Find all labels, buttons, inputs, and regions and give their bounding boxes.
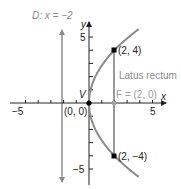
origin-label: (0, 0) <box>64 106 87 117</box>
latus-rectum-label: Latus rectum <box>119 70 177 81</box>
focus-point <box>112 101 117 106</box>
y-tick-label-bottom: −5 <box>73 164 85 175</box>
x-axis-label: x <box>160 91 167 102</box>
parabola-figure: D: x = −2 y 5 −5 −5 5 x V (0, 0) F = (2,… <box>0 0 181 189</box>
vertex-point <box>86 100 91 105</box>
y-tick-label-top: 5 <box>80 32 86 43</box>
point-upper <box>112 48 117 53</box>
y-axis-label: y <box>80 19 87 30</box>
point-lower-label: (2, −4) <box>118 151 147 162</box>
x-tick-label-left: −5 <box>12 106 24 117</box>
point-lower <box>112 154 117 159</box>
vertex-label: V <box>79 89 87 100</box>
point-upper-label: (2, 4) <box>118 45 141 56</box>
x-tick-label-right: 5 <box>150 106 156 117</box>
focus-label: F = (2, 0) <box>116 89 157 100</box>
directrix-label: D: x = −2 <box>32 10 73 21</box>
